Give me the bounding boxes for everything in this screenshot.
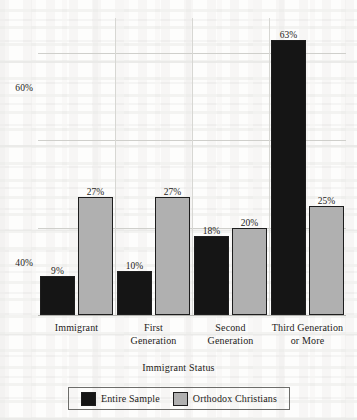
plot-area: 0%20%40%60%9%27%10%27%18%20%63%25% <box>38 18 346 315</box>
bar-value-label: 27% <box>87 187 105 197</box>
legend-swatch-entire-sample <box>81 392 96 406</box>
bar-chart-figure: 0%20%40%60%9%27%10%27%18%20%63%25% Immig… <box>0 0 357 420</box>
vertical-gridline-2 <box>192 18 193 315</box>
bar-value-label: 18% <box>203 226 221 236</box>
bar-entire-sample-1: 10% <box>117 271 152 315</box>
legend-item-orthodox-christians: Orthodox Christians <box>173 392 277 406</box>
gridline-0: 0% <box>38 315 346 316</box>
bar-entire-sample-3: 63% <box>271 40 306 315</box>
legend-label-orthodox-christians: Orthodox Christians <box>193 393 277 404</box>
bar-value-label: 27% <box>164 187 182 197</box>
vertical-gridline-3 <box>269 18 270 315</box>
bar-entire-sample-2: 18% <box>194 236 229 315</box>
x-axis-category-label-2: SecondGeneration <box>192 322 269 347</box>
bar-orthodox-christians-1: 27% <box>155 197 190 315</box>
x-axis-title: Immigrant Status <box>0 362 357 373</box>
legend-swatch-orthodox-christians <box>173 392 188 406</box>
bar-orthodox-christians-3: 25% <box>309 206 344 315</box>
bar-value-label: 9% <box>51 266 64 276</box>
chart-legend: Entire Sample Orthodox Christians <box>68 387 290 410</box>
legend-item-entire-sample: Entire Sample <box>81 392 160 406</box>
category-label-line: First <box>115 322 192 335</box>
category-label-line: Generation <box>115 335 192 348</box>
bar-value-label: 25% <box>318 196 336 206</box>
bar-value-label: 20% <box>241 218 259 228</box>
legend-label-entire-sample: Entire Sample <box>101 393 160 404</box>
x-axis-category-label-3: Third Generationor More <box>269 322 346 347</box>
category-label-line: Immigrant <box>38 322 115 335</box>
bar-entire-sample-0: 9% <box>40 276 75 315</box>
bar-orthodox-christians-0: 27% <box>78 197 113 315</box>
y-axis-tick-label-60: 60% <box>15 83 33 93</box>
category-label-line: Second <box>192 322 269 335</box>
bar-value-label: 10% <box>126 261 144 271</box>
bar-orthodox-christians-2: 20% <box>232 228 267 315</box>
bar-value-label: 63% <box>280 30 298 40</box>
category-label-line: or More <box>269 335 346 348</box>
category-label-line: Generation <box>192 335 269 348</box>
category-label-line: Third Generation <box>269 322 346 335</box>
x-axis-category-label-0: Immigrant <box>38 322 115 335</box>
x-axis-category-label-1: FirstGeneration <box>115 322 192 347</box>
y-axis-tick-label-40: 40% <box>15 258 33 268</box>
vertical-gridline-1 <box>115 18 116 315</box>
